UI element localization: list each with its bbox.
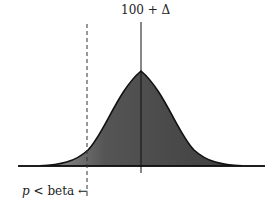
distribution-diagram xyxy=(0,0,277,212)
p-variable: p xyxy=(22,184,30,198)
mean-label: 100 + Δ xyxy=(121,3,170,17)
threshold-text: < beta xyxy=(34,184,75,198)
left-arrow-icon: ← xyxy=(78,184,88,198)
threshold-label: p < beta ← xyxy=(22,184,88,198)
